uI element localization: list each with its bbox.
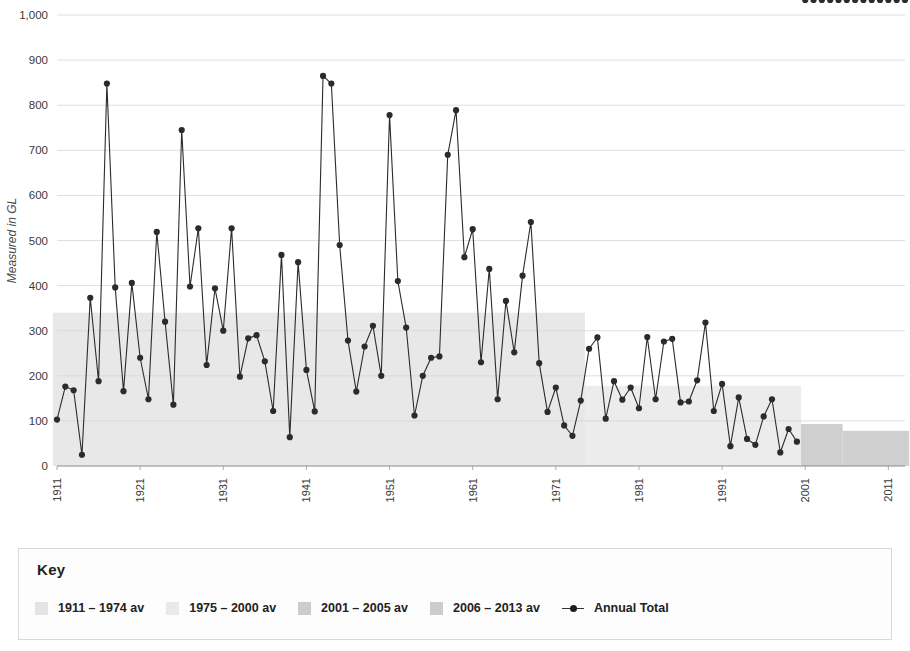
average-band-2 [585,386,801,466]
data-point [420,373,426,379]
data-point [902,0,908,3]
data-point [120,388,126,394]
y-axis-tick-label: 300 [29,325,48,337]
legend-item-label: 1911 – 1974 av [58,601,144,615]
data-point [362,343,368,349]
y-axis-tick-label: 900 [29,54,48,66]
y-axis-tick-label: 500 [29,235,48,247]
legend-item[interactable]: 2006 – 2013 av [430,601,540,615]
data-point [129,280,135,286]
data-point [245,335,251,341]
data-point [752,442,758,448]
y-axis-tick-label: 100 [29,415,48,427]
data-point [777,449,783,455]
data-point [827,0,833,3]
data-point [694,377,700,383]
data-point [761,413,767,419]
data-point [495,396,501,402]
average-band-4 [843,431,910,466]
data-point [470,226,476,232]
legend-swatch-icon [35,602,48,615]
data-point [378,373,384,379]
legend-item[interactable]: Annual Total [562,601,669,615]
data-point [503,298,509,304]
data-point [204,362,210,368]
data-point [353,388,359,394]
legend-item-label: 2001 – 2005 av [321,601,408,615]
legend-item[interactable]: 1911 – 1974 av [35,601,144,615]
data-point [628,384,634,390]
data-point [303,367,309,373]
data-point [636,405,642,411]
data-point [428,355,434,361]
data-point [278,252,284,258]
x-axis-tick-label: 1961 [467,478,479,502]
data-point [869,0,875,3]
data-point [569,433,575,439]
legend-item-label: 2006 – 2013 av [453,601,540,615]
data-point [395,278,401,284]
data-point [677,399,683,405]
x-axis-tick-label: 2001 [799,478,811,502]
y-axis-tick-label: 1,000 [19,9,48,21]
data-point [894,0,900,3]
data-point [253,332,259,338]
data-point [112,284,118,290]
data-point [337,242,343,248]
data-point [528,219,534,225]
x-axis-tick-label: 1971 [550,478,562,502]
data-point [860,0,866,3]
data-point [802,0,808,3]
data-point [544,409,550,415]
data-point [154,229,160,235]
chart-plot-container: 01002003004005006007008009001,000Measure… [0,0,910,530]
legend-item[interactable]: 2001 – 2005 av [298,601,408,615]
legend-swatch-icon [430,602,443,615]
data-point [553,384,559,390]
y-axis-tick-label: 800 [29,99,48,111]
data-point [536,360,542,366]
data-point [719,381,725,387]
legend-item[interactable]: 1975 – 2000 av [166,601,276,615]
legend-swatch-icon [298,602,311,615]
data-point [611,378,617,384]
data-point [453,107,459,113]
x-axis-tick-label: 1941 [300,478,312,502]
data-point [370,323,376,329]
data-point [187,283,193,289]
data-point [727,443,733,449]
data-point [262,358,268,364]
data-point [403,324,409,330]
y-axis-tick-label: 400 [29,280,48,292]
data-point [461,254,467,260]
data-point [179,127,185,133]
data-point [594,334,600,340]
x-axis-tick-label: 1931 [217,478,229,502]
annual-total-line-chart: 01002003004005006007008009001,000Measure… [0,0,910,530]
data-point [652,396,658,402]
data-point [220,328,226,334]
data-point [328,80,334,86]
data-point [79,452,85,458]
data-point [486,266,492,272]
data-point [104,80,110,86]
data-point [769,396,775,402]
y-axis-title: Measured in GL [5,198,19,283]
data-point [312,408,318,414]
data-point [162,319,168,325]
data-point [669,336,675,342]
data-point [619,397,625,403]
data-point [237,374,243,380]
data-point [195,225,201,231]
data-point [270,408,276,414]
legend-item-label: Annual Total [594,601,669,615]
data-point [478,359,484,365]
data-point [386,112,392,118]
data-point [561,422,567,428]
data-point [835,0,841,3]
data-point [212,285,218,291]
chart-legend: Key 1911 – 1974 av1975 – 2000 av2001 – 2… [18,548,892,640]
data-point [62,384,68,390]
data-point [320,73,326,79]
data-point [411,412,417,418]
